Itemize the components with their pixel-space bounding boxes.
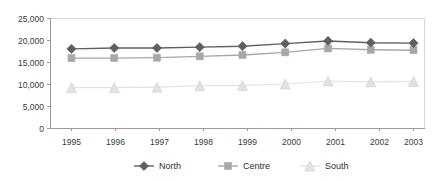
marker-diamond <box>110 43 119 52</box>
y-tick-label: 10,000 <box>18 80 44 90</box>
marker-square <box>68 55 75 62</box>
x-tick-label: 1999 <box>238 137 257 147</box>
y-tick-label: 5,000 <box>23 102 45 112</box>
x-tick-label: 2001 <box>326 137 345 147</box>
series-south <box>67 76 419 93</box>
marker-square <box>225 163 232 170</box>
legend-label-north: North <box>159 161 181 171</box>
marker-diamond <box>152 43 161 52</box>
x-tick-label: 2003 <box>404 137 423 147</box>
y-tick-label: 0 <box>39 124 44 134</box>
line-chart: 25,000 20,000 15,000 10,000 5,000 0 <box>0 0 438 181</box>
x-tick-label: 2002 <box>370 137 389 147</box>
x-tick-label: 1998 <box>194 137 213 147</box>
x-axis-tick-labels: 1995 1996 1997 1998 1999 2000 2001 2002 … <box>62 137 423 147</box>
marker-square <box>325 45 332 52</box>
y-tick-label: 20,000 <box>18 36 44 46</box>
plot-frame <box>51 19 425 129</box>
marker-square <box>239 52 246 59</box>
marker-diamond <box>409 39 418 48</box>
legend-item-north[interactable]: North <box>134 161 181 171</box>
x-axis: 1995 1996 1997 1998 1999 2000 2001 2002 … <box>51 129 425 148</box>
marker-square <box>154 54 161 61</box>
marker-diamond <box>323 36 332 45</box>
x-tick-label: 1997 <box>150 137 169 147</box>
legend-item-south[interactable]: South <box>300 161 349 171</box>
y-axis-ticks <box>47 19 51 129</box>
marker-diamond <box>238 42 247 51</box>
marker-diamond <box>67 44 76 53</box>
data-series-layer <box>67 36 419 92</box>
y-tick-label: 25,000 <box>18 14 44 24</box>
marker-square <box>196 53 203 60</box>
legend-label-south: South <box>325 161 349 171</box>
y-tick-label: 15,000 <box>18 58 44 68</box>
x-tick-label: 2000 <box>282 137 301 147</box>
marker-square <box>111 55 118 62</box>
marker-diamond <box>195 43 204 52</box>
marker-diamond <box>281 39 290 48</box>
chart-container: 25,000 20,000 15,000 10,000 5,000 0 <box>0 0 438 181</box>
y-axis-tick-labels: 25,000 20,000 15,000 10,000 5,000 0 <box>18 14 44 134</box>
x-tick-label: 1995 <box>62 137 81 147</box>
x-tick-label: 1996 <box>106 137 125 147</box>
chart-legend: NorthCentreSouth <box>134 161 349 171</box>
legend-label-centre: Centre <box>243 161 270 171</box>
y-axis: 25,000 20,000 15,000 10,000 5,000 0 <box>18 14 51 134</box>
marker-diamond <box>139 161 148 170</box>
legend-item-centre[interactable]: Centre <box>218 161 270 171</box>
marker-diamond <box>366 38 375 47</box>
series-north <box>67 36 418 53</box>
marker-square <box>282 49 289 56</box>
